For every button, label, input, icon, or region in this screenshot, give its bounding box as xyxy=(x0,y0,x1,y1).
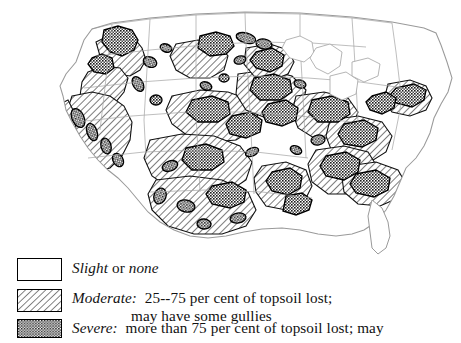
legend: Slight or none Moderate: 25--75 per cent… xyxy=(0,254,461,343)
legend-connector-slight: or xyxy=(108,259,129,276)
legend-swatch-severe xyxy=(17,319,62,338)
legend-text-slight: Slight or none xyxy=(72,259,159,276)
moderate-pattern-icon xyxy=(18,290,61,311)
map-svg xyxy=(0,0,461,258)
legend-label-slight: Slight xyxy=(72,259,108,276)
legend-row-moderate: Moderate: 25--75 per cent of topsoil los… xyxy=(0,288,461,318)
legend-swatch-slight xyxy=(17,258,62,281)
legend-label-severe: Severe: xyxy=(72,319,118,336)
legend-desc-severe: more than 75 per cent of topsoil lost; m… xyxy=(125,319,383,336)
legend-row-slight: Slight or none xyxy=(0,254,461,286)
legend-desc-moderate: 25--75 per cent of topsoil lost; xyxy=(145,289,333,306)
legend-swatch-moderate xyxy=(17,289,62,312)
legend-label-slight-alt: none xyxy=(129,259,159,276)
erosion-map xyxy=(0,0,461,258)
soil-erosion-figure: Slight or none Moderate: 25--75 per cent… xyxy=(0,0,461,343)
legend-label-moderate: Moderate: xyxy=(72,289,137,306)
legend-text-severe: Severe: more than 75 per cent of topsoil… xyxy=(72,319,384,336)
severe-pattern-icon xyxy=(18,320,61,337)
legend-row-severe: Severe: more than 75 per cent of topsoil… xyxy=(0,318,461,343)
